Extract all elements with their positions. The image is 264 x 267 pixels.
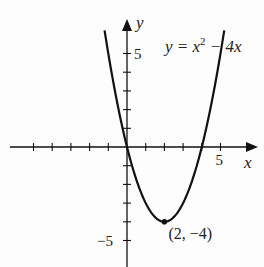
equation-label: y = x2 − 4x: [163, 35, 242, 56]
parabola-curve: [105, 30, 225, 224]
y-tick-label-neg5: −5: [97, 233, 113, 249]
y-axis-label: y: [134, 13, 144, 32]
y-tick-label-5: 5: [134, 46, 142, 62]
labels: (2, −4)yx5−55y = x2 − 4x: [97, 13, 252, 249]
x-axis-label: x: [243, 153, 252, 172]
parabola-path: [105, 30, 225, 221]
y-axis-arrow-icon: [122, 19, 132, 31]
x-tick-label-5: 5: [216, 152, 224, 168]
vertex-point: [162, 219, 168, 225]
x-axis-arrow-icon: [246, 142, 258, 152]
vertex-label: (2, −4): [168, 225, 212, 243]
parabola-graph: (2, −4)yx5−55y = x2 − 4x: [0, 0, 264, 267]
plot-area: (2, −4)yx5−55y = x2 − 4x: [0, 0, 264, 267]
